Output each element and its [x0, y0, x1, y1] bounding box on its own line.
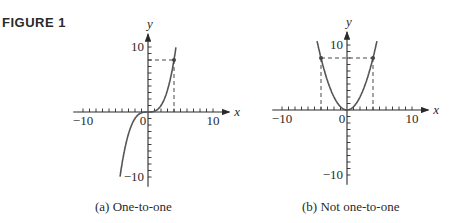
caption-a: (a) One-to-one [95, 199, 172, 215]
svg-text:x: x [233, 104, 240, 119]
svg-text:−10: −10 [73, 113, 93, 128]
svg-text:−10: −10 [272, 111, 292, 126]
svg-text:0: 0 [339, 111, 346, 126]
svg-text:−10: −10 [323, 167, 343, 182]
svg-text:y: y [344, 14, 352, 29]
plot-a: −1010010−10xy [73, 16, 241, 187]
svg-text:−10: −10 [124, 169, 144, 184]
figures-canvas: −1010010−10xy −1010010−10xy [0, 0, 460, 223]
svg-text:10: 10 [330, 37, 343, 52]
plot-b: −1010010−10xy [272, 14, 440, 185]
svg-text:10: 10 [406, 111, 419, 126]
caption-b: (b) Not one-to-one [302, 199, 399, 215]
svg-text:10: 10 [131, 39, 144, 54]
svg-text:0: 0 [140, 113, 147, 128]
svg-text:y: y [145, 16, 153, 31]
svg-text:x: x [432, 102, 439, 117]
svg-text:10: 10 [207, 113, 220, 128]
